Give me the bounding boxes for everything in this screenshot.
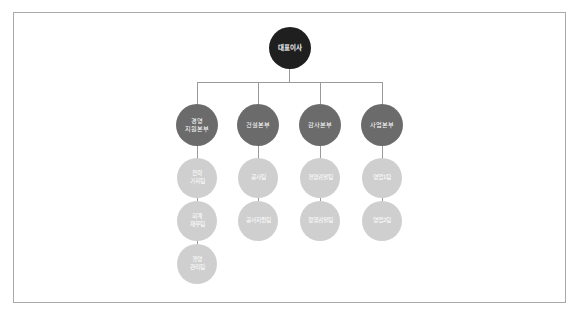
- node-label: 정행감찰팀: [308, 217, 333, 225]
- node-label: 경영 관리팀: [190, 256, 205, 272]
- node-label: 감사본부: [308, 121, 332, 129]
- connector-col2-down: [258, 82, 259, 104]
- org-node-management-admin-team: 경영 관리팀: [177, 244, 217, 284]
- connector-horizontal: [197, 82, 383, 83]
- org-node-sales-team-1: 영업1팀: [362, 158, 402, 198]
- connector-root-down: [289, 69, 290, 82]
- node-label: 경영감찰팀: [308, 174, 333, 182]
- node-label: 영업2팀: [373, 217, 392, 225]
- org-node-sales-team-2: 영업2팀: [362, 201, 402, 241]
- node-label: 회계 재무팀: [190, 213, 205, 229]
- org-node-strategy-planning-team: 전략 기획팀: [177, 158, 217, 198]
- node-label: 영업1팀: [373, 174, 392, 182]
- org-node-business-division: 사업본부: [361, 104, 403, 146]
- org-node-management-support-division: 경영 지원본부: [176, 104, 218, 146]
- org-node-audit-division: 감사본부: [299, 104, 341, 146]
- node-label: 공사지원팀: [246, 217, 271, 225]
- connector-col1-down: [197, 82, 198, 104]
- node-label: 대표이사: [278, 44, 302, 53]
- org-node-construction-support-team: 공사지원팀: [238, 201, 278, 241]
- org-node-construction-team: 공사팀: [238, 158, 278, 198]
- node-label: 건설본부: [246, 121, 270, 129]
- node-label: 사업본부: [370, 121, 394, 129]
- org-node-ceo: 대표이사: [269, 27, 311, 69]
- connector-col4-down: [382, 82, 383, 104]
- org-node-administrative-inspection-team: 정행감찰팀: [300, 201, 340, 241]
- node-label: 공사팀: [251, 174, 266, 182]
- org-node-construction-division: 건설본부: [237, 104, 279, 146]
- connector-col3-down: [320, 82, 321, 104]
- org-node-management-inspection-team: 경영감찰팀: [300, 158, 340, 198]
- node-label: 전략 기획팀: [190, 170, 205, 186]
- node-label: 경영 지원본부: [185, 117, 209, 134]
- org-node-accounting-finance-team: 회계 재무팀: [177, 201, 217, 241]
